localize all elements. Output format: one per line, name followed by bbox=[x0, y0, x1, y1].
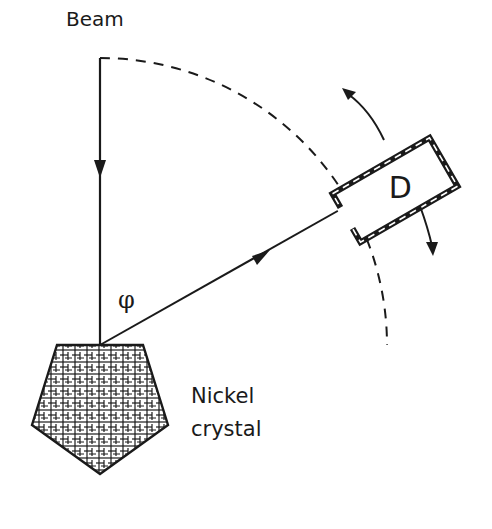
crystal-label-line2: crystal bbox=[191, 417, 262, 441]
nickel-crystal bbox=[32, 345, 168, 474]
detector-label: D bbox=[389, 170, 412, 205]
rotate-up-arrow-icon bbox=[348, 94, 384, 140]
beam-label: Beam bbox=[66, 7, 124, 31]
diffraction-diagram: Beam φ D Nickel crystal bbox=[0, 0, 492, 529]
incident-arrowhead-icon bbox=[94, 160, 106, 178]
detector: D bbox=[329, 138, 457, 244]
incident-beam bbox=[94, 58, 106, 345]
scattered-arrowhead-icon bbox=[252, 250, 270, 265]
crystal-label-line1: Nickel bbox=[191, 384, 254, 408]
scattered-beam bbox=[100, 204, 350, 345]
angle-label-phi: φ bbox=[118, 286, 135, 314]
rotate-down-arrow-icon bbox=[420, 206, 432, 246]
